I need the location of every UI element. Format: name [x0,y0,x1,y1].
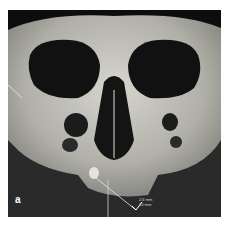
ct-figure-panel: a 2.6 mm 10 mm [8,10,221,217]
measurement-value-2: 10 mm [139,202,152,207]
measurement-label: 2.6 mm 10 mm [139,197,152,207]
skull-rendering [8,10,221,217]
panel-label: a [15,194,21,205]
